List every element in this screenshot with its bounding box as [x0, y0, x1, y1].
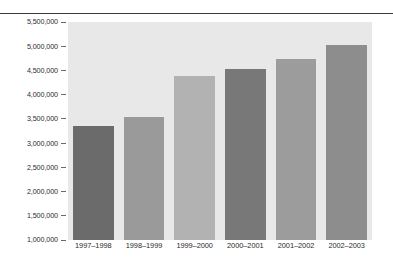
- y-axis-tick-label: 4,500,000: [27, 67, 58, 74]
- bar: [276, 59, 317, 240]
- y-axis-tick-mark: [61, 215, 66, 216]
- y-axis-tick-mark: [61, 118, 66, 119]
- y-axis-tick-mark: [61, 46, 66, 47]
- x-axis-tick-label: 2001–2002: [271, 241, 322, 251]
- bar: [124, 117, 165, 240]
- x-axis-tick-label: 1997–1998: [68, 241, 119, 251]
- y-axis-tick-mark: [61, 167, 66, 168]
- y-axis-tick-mark: [61, 70, 66, 71]
- y-axis-tick-label: 1,500,000: [27, 212, 58, 219]
- bar: [73, 126, 114, 240]
- y-axis-tick-mark: [61, 94, 66, 95]
- y-axis-tick-label: 2,000,000: [27, 188, 58, 195]
- y-axis-tick-label: 3,000,000: [27, 140, 58, 147]
- y-axis-tick-label: 1,000,000: [27, 236, 58, 243]
- y-axis-tick-mark: [61, 191, 66, 192]
- x-axis-tick-label: 2002–2003: [321, 241, 372, 251]
- y-axis-tick-mark: [61, 22, 66, 23]
- bar: [326, 45, 367, 240]
- x-axis: 1997–19981998–19991999–20002000–20012001…: [68, 241, 372, 255]
- bar: [174, 76, 215, 240]
- bar: [225, 69, 266, 240]
- y-axis-tick-label: 2,500,000: [27, 164, 58, 171]
- y-axis-tick-label: 5,500,000: [27, 18, 58, 25]
- x-axis-tick-label: 2000–2001: [220, 241, 271, 251]
- y-axis-tick-label: 5,000,000: [27, 43, 58, 50]
- y-axis: 5,500,0005,000,0004,500,0004,000,0003,50…: [0, 22, 68, 240]
- x-axis-tick-label: 1998–1999: [119, 241, 170, 251]
- y-axis-tick-mark: [61, 143, 66, 144]
- bar-chart: 5,500,0005,000,0004,500,0004,000,0003,50…: [0, 0, 393, 271]
- y-axis-tick-label: 4,000,000: [27, 91, 58, 98]
- x-axis-tick-label: 1999–2000: [169, 241, 220, 251]
- y-axis-tick-mark: [61, 240, 66, 241]
- y-axis-tick-label: 3,500,000: [27, 115, 58, 122]
- bar-series: [68, 22, 372, 240]
